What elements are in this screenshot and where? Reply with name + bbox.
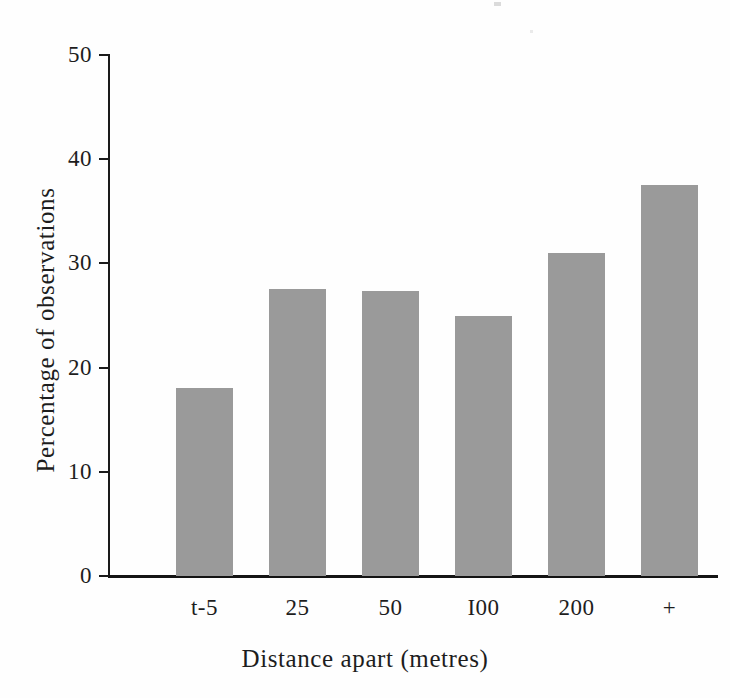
x-axis-tick-label: I00 xyxy=(430,596,537,619)
x-axis-tick-label: 200 xyxy=(523,596,630,619)
x-axis-tick-label: 50 xyxy=(337,596,444,619)
bar xyxy=(362,291,419,577)
bar xyxy=(455,316,512,577)
scan-artifact xyxy=(494,2,501,6)
bar xyxy=(548,253,605,576)
bar-series xyxy=(0,0,730,698)
x-axis-title: Distance apart (metres) xyxy=(0,645,730,673)
bar xyxy=(641,185,698,576)
x-axis-tick-label: + xyxy=(616,596,723,619)
x-axis-tick-label: t-5 xyxy=(151,596,258,619)
bar xyxy=(176,388,233,576)
y-axis-title: Percentage of observations xyxy=(32,70,60,590)
bar-chart-figure: 01020304050 t-52550I00200+ Distance apar… xyxy=(0,0,730,698)
scan-artifact xyxy=(530,30,533,33)
bar xyxy=(269,289,326,576)
x-axis-tick-label: 25 xyxy=(244,596,351,619)
